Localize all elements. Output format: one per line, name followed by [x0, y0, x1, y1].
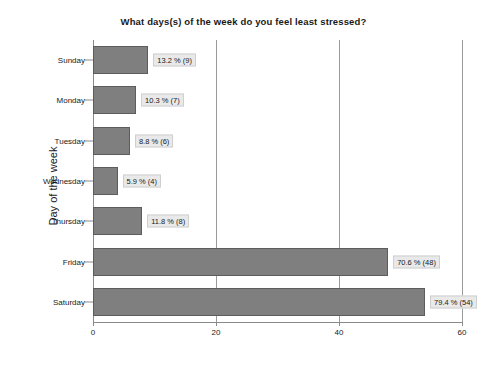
bar-tuesday[interactable] [93, 127, 130, 155]
bar-value-label: 5.9 % (4) [123, 175, 161, 188]
bar-row: 5.9 % (4) [93, 167, 462, 195]
x-tick-mark [462, 322, 463, 326]
y-tick-monday: Monday [57, 96, 85, 105]
bar-value-label: 11.8 % (8) [147, 215, 189, 228]
x-tick-mark [216, 322, 217, 326]
y-tick-tuesday: Tuesday [55, 136, 85, 145]
bar-row: 10.3 % (7) [93, 86, 462, 114]
x-axis-tick-labels: 0204060 [93, 322, 462, 348]
y-tick-mark [85, 100, 93, 101]
y-tick-wednesday: Wednesday [43, 177, 85, 186]
y-tick-mark [85, 60, 93, 61]
y-tick-mark [85, 181, 93, 182]
bar-row: 11.8 % (8) [93, 207, 462, 235]
gridline-60 [462, 40, 463, 322]
x-tick-label-0: 0 [91, 328, 95, 337]
bar-saturday[interactable] [93, 288, 425, 316]
bar-monday[interactable] [93, 86, 136, 114]
y-tick-mark [85, 221, 93, 222]
x-tick-label-40: 40 [335, 328, 344, 337]
plot-area: 13.2 % (9)10.3 % (7)8.8 % (6)5.9 % (4)11… [93, 40, 462, 322]
chart-title: What days(s) of the week do you feel lea… [0, 16, 487, 27]
bar-value-label: 13.2 % (9) [153, 54, 196, 67]
bar-chart: What days(s) of the week do you feel lea… [0, 0, 487, 372]
x-tick-label-20: 20 [212, 328, 221, 337]
bar-sunday[interactable] [93, 46, 148, 74]
bar-row: 70.6 % (48) [93, 248, 462, 276]
y-tick-mark [85, 261, 93, 262]
x-tick-mark [339, 322, 340, 326]
bar-value-label: 8.8 % (6) [135, 134, 173, 147]
x-tick-label-60: 60 [458, 328, 467, 337]
y-tick-sunday: Sunday [58, 56, 85, 65]
bar-value-label: 79.4 % (54) [430, 295, 477, 308]
bar-wednesday[interactable] [93, 167, 118, 195]
y-tick-saturday: Saturday [53, 297, 85, 306]
y-tick-mark [85, 140, 93, 141]
bar-row: 79.4 % (54) [93, 288, 462, 316]
x-tick-mark [93, 322, 94, 326]
bar-thursday[interactable] [93, 207, 142, 235]
y-axis-tick-labels: SundayMondayTuesdayWednesdayThursdayFrid… [0, 40, 85, 322]
bar-row: 13.2 % (9) [93, 46, 462, 74]
bar-row: 8.8 % (6) [93, 127, 462, 155]
y-tick-friday: Friday [63, 257, 85, 266]
y-tick-thursday: Thursday [52, 217, 85, 226]
bar-value-label: 70.6 % (48) [393, 255, 440, 268]
bar-value-label: 10.3 % (7) [141, 94, 184, 107]
bar-friday[interactable] [93, 248, 388, 276]
y-tick-mark [85, 301, 93, 302]
